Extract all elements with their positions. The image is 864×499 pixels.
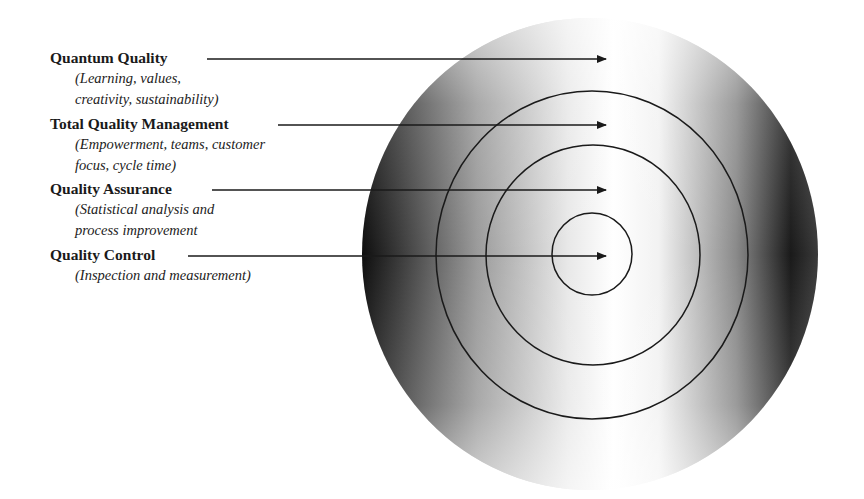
level-description-line: (Statistical analysis and	[75, 201, 214, 218]
level-description-line: focus, cycle time)	[75, 157, 176, 174]
level-description-line: creativity, sustainability)	[75, 91, 219, 108]
level-description-line: (Inspection and measurement)	[75, 267, 251, 284]
level-title-quality-control: Quality Control	[50, 246, 155, 264]
quality-evolution-diagram: Quantum Quality (Learning, values, creat…	[0, 0, 864, 499]
level-description-line: (Learning, values,	[75, 70, 181, 87]
level-description-line: (Empowerment, teams, customer	[75, 136, 265, 153]
level-description-line: process improvement	[75, 222, 198, 239]
level-title-total-quality-management: Total Quality Management	[50, 115, 229, 133]
level-title-quality-assurance: Quality Assurance	[50, 180, 172, 198]
level-title-quantum-quality: Quantum Quality	[50, 49, 168, 67]
